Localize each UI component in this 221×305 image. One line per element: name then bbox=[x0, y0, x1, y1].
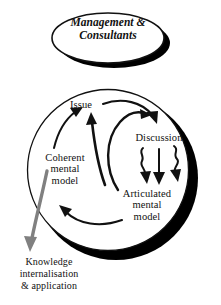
node-label-discussion: Discussion bbox=[128, 132, 190, 143]
outflow-label-knowledge-internalisation: Knowledge internalisation & application bbox=[2, 256, 96, 291]
node-label-articulated-mental-model: Articulated mental model bbox=[114, 188, 180, 222]
header-label: Management & Consultants bbox=[60, 16, 156, 42]
node-label-coherent-mental-model: Coherent mental model bbox=[34, 152, 96, 186]
node-label-issue: Issue bbox=[58, 99, 104, 110]
knowledge-cycle-diagram: Management & Consultants Issue Discussio… bbox=[0, 0, 221, 305]
